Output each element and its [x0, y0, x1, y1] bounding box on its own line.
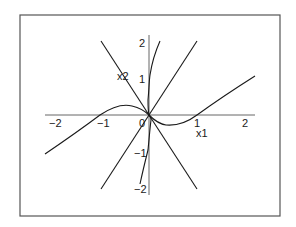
y-tick-label-2: 2 — [139, 37, 145, 49]
x-axis-label: x1 — [196, 127, 208, 139]
x-tick-label-neg2: −2 — [49, 117, 62, 129]
y-tick-label-neg1: −1 — [134, 147, 147, 159]
phase-plot-figure: −2 −1 0 1 2 2 1 −1 −2 x1 x2 — [0, 0, 296, 227]
y-tick-label-neg2: −2 — [134, 183, 147, 195]
y-tick-label-1: 1 — [139, 73, 145, 85]
y-axis-label: x2 — [117, 70, 129, 82]
origin-label: 0 — [139, 117, 145, 129]
x-tick-label-neg1: −1 — [97, 117, 110, 129]
x-tick-label-2: 2 — [242, 117, 248, 129]
